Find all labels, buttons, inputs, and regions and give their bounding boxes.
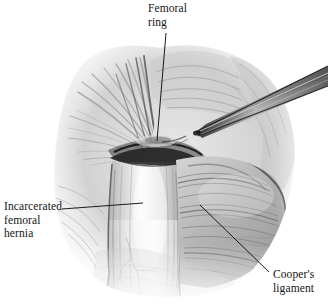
label-coopers-ligament: Cooper's ligament: [273, 268, 314, 295]
figure-root: Femoral ring Incarcerated femoral hernia…: [0, 0, 328, 308]
anatomy-illustration: [0, 0, 328, 308]
label-incarcerated-femoral-hernia: Incarcerated femoral hernia: [4, 200, 62, 241]
label-femoral-ring: Femoral ring: [148, 2, 187, 29]
fade-left: [0, 0, 64, 308]
fade-right: [276, 0, 328, 308]
